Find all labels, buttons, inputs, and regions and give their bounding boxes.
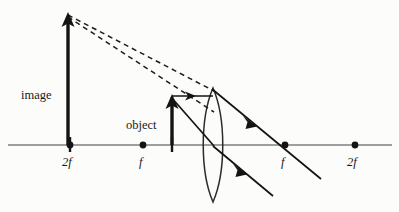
refracted-centre-ray-arrowhead (233, 164, 247, 177)
focal-label-f-right: f (281, 156, 284, 169)
virtual-ray-upper-dashed (68, 15, 214, 91)
focal-point-f-left (140, 142, 147, 149)
focal-label-2f-right: 2f (347, 156, 357, 169)
focal-label-2f-left: 2f (62, 156, 72, 169)
focal-point-2f-right (352, 142, 359, 149)
refracted-focus-ray (212, 89, 321, 179)
image-label: image (21, 89, 52, 102)
refracted-focus-ray-arrowhead (243, 116, 257, 129)
diagram-canvas (0, 0, 399, 212)
virtual-ray-lower-dashed (68, 17, 214, 112)
ray-diagram-figure: image object 2f f f 2f (0, 0, 399, 212)
focal-label-f-left: f (139, 156, 142, 169)
refracted-centre-ray (213, 146, 273, 196)
object-label: object (126, 119, 157, 132)
